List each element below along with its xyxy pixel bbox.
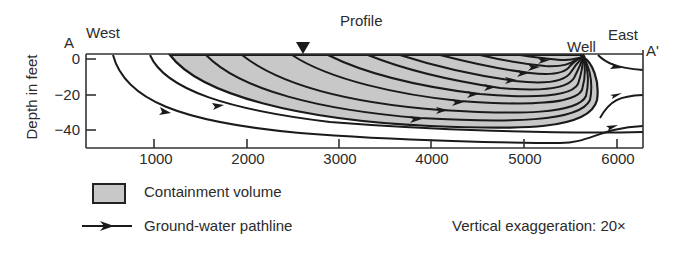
legend-pathline-label: Ground-water pathline	[144, 217, 292, 234]
legend-containment-swatch	[92, 183, 126, 204]
section-start-label: A	[64, 34, 74, 51]
east-label: East	[608, 26, 638, 43]
y-tick: −40	[30, 121, 80, 138]
x-tick: 6000	[601, 150, 634, 167]
x-tick: 3000	[323, 150, 356, 167]
well-label: Well	[567, 38, 596, 55]
x-tick: 1000	[139, 150, 172, 167]
title: Profile	[340, 12, 383, 29]
section-end-label: A'	[646, 42, 659, 59]
x-tick: 5000	[508, 150, 541, 167]
vertical-exaggeration-note: Vertical exaggeration: 20×	[452, 217, 626, 234]
water-table-triangle-icon	[296, 42, 310, 54]
legend-containment-label: Containment volume	[144, 183, 282, 200]
well-icon	[581, 55, 586, 60]
west-label: West	[86, 24, 120, 41]
x-tick: 2000	[231, 150, 264, 167]
x-tick: 4000	[415, 150, 448, 167]
y-tick: −20	[30, 86, 80, 103]
y-tick: 0	[30, 50, 80, 67]
